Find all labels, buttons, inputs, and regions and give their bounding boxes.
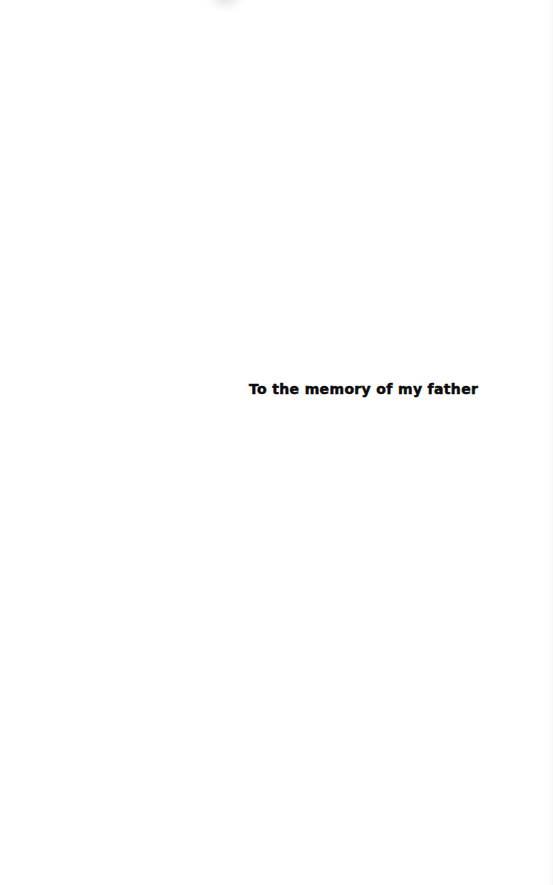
- page-edge-shadow: [547, 0, 553, 885]
- book-page: To the memory of my father: [0, 0, 553, 885]
- scan-artifact: [205, 0, 245, 12]
- dedication-text: To the memory of my father: [249, 379, 478, 399]
